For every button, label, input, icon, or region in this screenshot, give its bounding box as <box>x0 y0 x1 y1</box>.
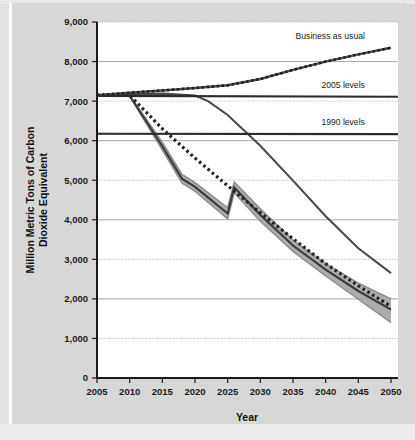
y-axis-tick-label: 0 <box>83 372 88 383</box>
annotation-label: Business as usual <box>296 31 365 41</box>
y-axis-tick-labels: 01,0002,0003,0004,0005,0006,0007,0008,00… <box>64 16 88 383</box>
y-axis-title-line1: Million Metric Tons of Carbon <box>24 127 36 274</box>
y-axis-tick-label: 3,000 <box>64 254 88 265</box>
x-axis-tick-labels: 2005201020152020202520302035204020452050 <box>86 386 401 397</box>
x-axis-tick-label: 2050 <box>380 386 401 397</box>
reference-line-2005-levels <box>97 96 398 97</box>
y-axis-tick-label: 4,000 <box>64 214 88 225</box>
x-axis-tick-label: 2040 <box>315 386 336 397</box>
x-axis-tick-label: 2005 <box>86 386 108 397</box>
x-axis-tick-label: 2025 <box>217 386 239 397</box>
annotation-label: 2005 levels <box>321 80 364 90</box>
y-axis-tick-label: 7,000 <box>64 96 88 107</box>
x-axis-title: Year <box>236 411 258 423</box>
chart-svg: 01,0002,0003,0004,0005,0006,0007,0008,00… <box>0 0 415 440</box>
x-axis-tick-label: 2030 <box>250 386 271 397</box>
y-axis-tick-label: 6,000 <box>64 135 88 146</box>
y-axis-tick-label: 1,000 <box>64 333 88 344</box>
y-axis-title-line2: Dioxide Equivalent <box>37 153 49 247</box>
chart-figure: 01,0002,0003,0004,0005,0006,0007,0008,00… <box>0 0 415 440</box>
y-axis-tick-label: 5,000 <box>64 175 88 186</box>
x-axis-tick-label: 2015 <box>152 386 174 397</box>
y-axis-tick-label: 8,000 <box>64 56 88 67</box>
annotation-label: 1990 levels <box>321 117 364 127</box>
y-axis-tick-label: 2,000 <box>64 293 88 304</box>
y-axis-tick-label: 9,000 <box>64 16 88 27</box>
x-axis-tick-label: 2035 <box>282 386 304 397</box>
x-axis-tick-label: 2020 <box>184 386 205 397</box>
x-axis-tick-label: 2045 <box>348 386 370 397</box>
x-axis-tick-label: 2010 <box>119 386 140 397</box>
